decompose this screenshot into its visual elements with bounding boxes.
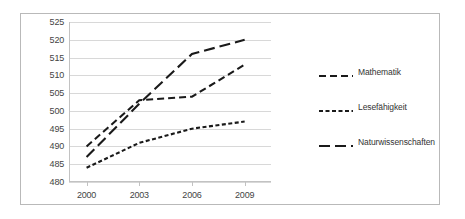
legend-swatch-icon xyxy=(319,67,353,77)
x-tick-label: 2000 xyxy=(77,190,96,200)
legend-entry: Lesefähigkeit xyxy=(319,102,407,112)
x-tick-mark xyxy=(192,182,193,186)
y-tick-label: 520 xyxy=(50,35,64,45)
plot-area: 480485490495500505510515520525 200020032… xyxy=(69,22,271,182)
x-tick-mark xyxy=(245,182,246,186)
y-tick-label: 480 xyxy=(50,177,64,187)
legend-label: Lesefähigkeit xyxy=(358,102,407,112)
legend-entry: Mathematik xyxy=(319,67,401,77)
legend-entry: Naturwissenschaften xyxy=(319,137,435,147)
plot-region: 480485490495500505510515520525 200020032… xyxy=(21,14,311,206)
chart-figure: 480485490495500505510515520525 200020032… xyxy=(20,13,440,205)
chart-legend: MathematikLesefähigkeitNaturwissenschaft… xyxy=(311,14,439,206)
x-tick-label: 2009 xyxy=(235,190,254,200)
y-tick-label: 495 xyxy=(50,124,64,134)
legend-swatch-icon xyxy=(319,102,353,112)
legend-label: Mathematik xyxy=(358,67,401,77)
x-tick-label: 2003 xyxy=(130,190,149,200)
series-line-naturwissenschaften xyxy=(87,40,245,157)
y-tick-label: 500 xyxy=(50,106,64,116)
legend-label: Naturwissenschaften xyxy=(358,137,435,147)
y-tick-label: 505 xyxy=(50,88,64,98)
y-tick-label: 525 xyxy=(50,17,64,27)
y-tick-label: 490 xyxy=(50,141,64,151)
series-line-lesefähigkeit xyxy=(87,122,245,168)
x-tick-mark xyxy=(139,182,140,186)
legend-swatch-icon xyxy=(319,137,353,147)
x-tick-mark xyxy=(87,182,88,186)
y-tick-label: 485 xyxy=(50,159,64,169)
y-tick-label: 510 xyxy=(50,70,64,80)
gridline xyxy=(69,182,271,183)
y-tick-label: 515 xyxy=(50,53,64,63)
x-tick-label: 2006 xyxy=(182,190,201,200)
series-lines xyxy=(69,22,271,182)
